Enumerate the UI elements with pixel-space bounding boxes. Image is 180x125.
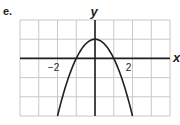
y-axis-label: y	[89, 4, 98, 19]
part-label: e.	[3, 5, 12, 17]
graph: e. y x −22	[0, 0, 180, 125]
x-tick-label: −2	[48, 62, 60, 73]
axes	[20, 20, 170, 116]
x-axis-label: x	[172, 50, 180, 65]
x-tick-label: 2	[126, 62, 132, 73]
